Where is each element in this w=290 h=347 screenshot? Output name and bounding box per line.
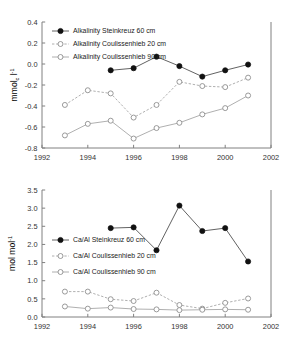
data-point-marker [108,305,113,310]
data-point-marker [131,225,136,230]
legend-label: Ca/Al Coulissenhieb 20 cm [73,252,156,259]
legend-marker [58,237,63,242]
data-point-marker [108,91,113,96]
x-tick-label: 1996 [125,153,141,162]
data-point-marker [108,68,113,73]
svg-text:mol mol-1: mol mol-1 [7,236,17,271]
legend-label: Alkalinity Coulissenhieb 20 cm [73,40,166,48]
data-point-marker [154,102,159,107]
legend-item[interactable]: Ca/Al Coulissenhieb 20 cm [52,252,156,259]
x-tick-label: 2002 [263,153,279,162]
chart-alkalinity: 199219941996199820002002-0.8-0.6-0.4-0.2… [0,0,290,172]
y-axis-ticks: 0.00.51.01.52.02.53.03.5 [27,186,45,322]
data-point-marker [85,306,90,311]
legend-item[interactable]: Ca/Al Steinkreuz 60 cm [52,236,145,243]
chart-panel-alkalinity: 199219941996199820002002-0.8-0.6-0.4-0.2… [0,0,290,172]
data-point-marker [200,307,205,312]
x-tick-label: 2000 [217,153,233,162]
data-point-marker [246,296,251,301]
data-point-marker [177,303,182,308]
series-2 [62,75,250,120]
legend-label: Ca/Al Steinkreuz 60 cm [73,236,145,243]
y-tick-label: 3.5 [27,186,37,195]
legend-marker [58,28,63,33]
data-point-marker [62,304,67,309]
data-point-marker [200,228,205,233]
data-point-marker [131,307,136,312]
data-point-marker [62,133,67,138]
x-tick-label: 1994 [80,322,96,331]
figure-container: 199219941996199820002002-0.8-0.6-0.4-0.2… [0,0,290,347]
data-point-marker [223,300,228,305]
legend: Ca/Al Steinkreuz 60 cmCa/Al Coulissenhie… [52,236,156,275]
data-point-marker [177,203,182,208]
legend-label: Ca/Al Coulissenhieb 90 cm [73,268,156,275]
data-point-marker [62,289,67,294]
y-tick-label: 0.4 [27,18,37,27]
y-tick-label: 1.0 [27,276,37,285]
data-point-marker [200,84,205,89]
legend-item[interactable]: Alkalinity Steinkreuz 60 cm [52,27,156,35]
y-tick-label: 0.0 [27,60,37,69]
data-point-marker [200,74,205,79]
x-tick-label: 2002 [263,322,279,331]
data-point-marker [108,297,113,302]
y-tick-label: -0.6 [25,123,38,132]
y-tick-label: 0.5 [27,295,37,304]
y-tick-label: 1.5 [27,258,37,267]
legend-marker [58,254,63,259]
legend-label: Alkalinity Coulissenhieb 90 cm [73,53,166,61]
x-axis-ticks: 199219941996199820002002 [34,145,279,162]
data-point-marker [108,226,113,231]
y-tick-label: 3.0 [27,204,37,213]
legend-label: Alkalinity Steinkreuz 60 cm [73,27,156,35]
data-point-marker [108,118,113,123]
series-3 [62,93,250,141]
y-tick-label: 2.5 [27,222,37,231]
x-tick-label: 1996 [125,322,141,331]
data-point-marker [131,136,136,141]
series-line [65,78,248,118]
data-point-marker [154,126,159,131]
data-point-marker [246,259,251,264]
y-axis-title: mol mol-1 [7,236,17,271]
y-tick-label: 2.0 [27,240,37,249]
x-tick-label: 1998 [171,322,187,331]
svg-text:mmolc l-1: mmolc l-1 [9,69,21,102]
data-point-marker [246,307,251,312]
data-point-marker [223,85,228,90]
x-tick-label: 2000 [217,322,233,331]
data-point-marker [223,68,228,73]
y-tick-label: -0.4 [25,102,38,111]
legend-item[interactable]: Alkalinity Coulissenhieb 20 cm [52,40,166,48]
data-point-marker [154,307,159,312]
data-point-marker [131,66,136,71]
x-tick-label: 1998 [171,153,187,162]
data-point-marker [223,307,228,312]
data-point-marker [154,290,159,295]
data-point-marker [200,112,205,117]
legend-item[interactable]: Ca/Al Coulissenhieb 90 cm [52,268,156,275]
legend-item[interactable]: Alkalinity Coulissenhieb 90 cm [52,53,166,61]
y-tick-label: -0.2 [25,81,38,90]
data-point-marker [62,102,67,107]
data-point-marker [177,308,182,313]
y-tick-label: -0.8 [25,144,38,153]
data-point-marker [177,64,182,69]
x-tick-label: 1994 [80,153,96,162]
series-3 [62,304,250,313]
data-point-marker [131,299,136,304]
series-line [65,96,248,139]
y-axis-title: mmolc l-1 [9,69,21,102]
data-point-marker [177,120,182,125]
y-tick-label: 0.2 [27,39,37,48]
data-point-marker [246,93,251,98]
data-point-marker [85,289,90,294]
legend: Alkalinity Steinkreuz 60 cmAlkalinity Co… [52,27,166,61]
data-point-marker [246,75,251,80]
data-point-marker [223,106,228,111]
y-tick-label: 0.0 [27,313,37,322]
x-axis-ticks: 199219941996199820002002 [34,314,279,331]
data-point-marker [85,121,90,126]
data-point-marker [131,115,136,120]
